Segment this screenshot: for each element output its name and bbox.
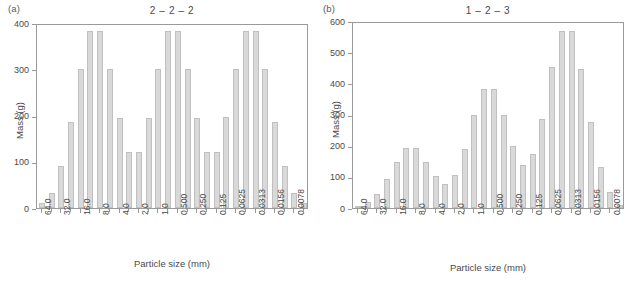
x-tick-mark-minor [148, 209, 149, 212]
x-tick-mark-minor [425, 209, 426, 212]
y-tick-mark [32, 163, 36, 164]
x-tick-mark-minor [561, 209, 562, 212]
y-tick-mark [32, 70, 36, 71]
y-tick-mark [348, 84, 352, 85]
panel-a-x-axis-label: Particle size (mm) [36, 258, 308, 269]
panel-a-title: 2 – 2 – 2 [36, 5, 308, 16]
bar [481, 89, 487, 208]
panel-b-title: 1 – 2 – 3 [352, 5, 624, 16]
x-tick-mark [119, 209, 120, 213]
y-tick-mark [32, 117, 36, 118]
bar [97, 31, 103, 208]
x-tick-mark [99, 209, 100, 213]
bar [68, 122, 74, 208]
bar [185, 69, 191, 208]
y-tick-label: 600 [330, 18, 345, 27]
x-tick-mark-minor [167, 209, 168, 212]
x-tick-mark-minor [206, 209, 207, 212]
x-tick-mark-minor [367, 209, 368, 212]
x-tick-mark [473, 209, 474, 213]
bar [87, 31, 93, 208]
bar [262, 69, 268, 208]
x-tick-mark [157, 209, 158, 213]
y-tick-label: 0 [340, 205, 345, 214]
bar [549, 67, 555, 208]
x-tick-mark-minor [245, 209, 246, 212]
y-tick-mark [32, 24, 36, 25]
bar [78, 69, 84, 208]
x-tick-label: 64.0 [44, 198, 53, 215]
panel-b: (b) 1 – 2 – 3 0100200300400500600 Mass (… [315, 0, 629, 281]
panel-a-plot-area [36, 24, 308, 209]
x-tick-mark-minor [580, 209, 581, 212]
x-tick-mark [177, 209, 178, 213]
bar [165, 31, 171, 208]
x-tick-mark [80, 209, 81, 213]
x-tick-mark-minor [89, 209, 90, 212]
y-tick-label: 400 [330, 80, 345, 89]
x-tick-mark [216, 209, 217, 213]
y-tick-mark [348, 178, 352, 179]
x-tick-mark [235, 209, 236, 213]
y-tick-label: 500 [330, 49, 345, 58]
x-tick-mark-minor [405, 209, 406, 212]
x-tick-mark [609, 209, 610, 213]
panel-a-tag: (a) [8, 3, 20, 14]
panel-a-bars [37, 25, 307, 208]
x-tick-mark-minor [619, 209, 620, 212]
x-tick-mark [435, 209, 436, 213]
x-tick-mark [293, 209, 294, 213]
y-tick-mark [348, 53, 352, 54]
x-tick-mark-minor [522, 209, 523, 212]
bar [155, 69, 161, 208]
bar [107, 69, 113, 208]
x-tick-mark-minor [541, 209, 542, 212]
x-tick-label: 16.0 [399, 198, 408, 215]
x-tick-mark-minor [187, 209, 188, 212]
bar [491, 89, 497, 208]
y-tick-label: 400 [14, 20, 29, 29]
bar [146, 118, 152, 208]
y-tick-label: 100 [330, 173, 345, 182]
x-tick-mark-minor [386, 209, 387, 212]
y-tick-mark [348, 22, 352, 23]
panel-b-y-axis-label: Mass (g) [330, 101, 341, 138]
panel-a: (a) 2 – 2 – 2 0100200300400 Mass (g) 64.… [0, 0, 314, 281]
x-tick-mark [255, 209, 256, 213]
x-tick-mark [551, 209, 552, 213]
x-tick-mark [571, 209, 572, 213]
figure-root: (a) 2 – 2 – 2 0100200300400 Mass (g) 64.… [0, 0, 629, 281]
bar [578, 69, 584, 208]
y-tick-mark [32, 209, 36, 210]
x-tick-mark-minor [264, 209, 265, 212]
y-tick-label: 0 [24, 205, 29, 214]
x-tick-mark [493, 209, 494, 213]
bar [175, 31, 181, 208]
bar [569, 31, 575, 208]
bar [423, 162, 429, 208]
x-tick-mark-minor [444, 209, 445, 212]
x-tick-mark [415, 209, 416, 213]
x-tick-mark-minor [483, 209, 484, 212]
y-tick-label: 100 [14, 158, 29, 167]
x-tick-label: 16.0 [83, 198, 92, 215]
panel-b-bars [353, 23, 623, 208]
x-tick-mark [590, 209, 591, 213]
bar [462, 149, 468, 208]
x-tick-mark-minor [503, 209, 504, 212]
x-tick-mark-minor [600, 209, 601, 212]
x-tick-mark [41, 209, 42, 213]
x-tick-mark [138, 209, 139, 213]
x-tick-mark-minor [51, 209, 52, 212]
x-tick-mark-minor [70, 209, 71, 212]
bar [243, 31, 249, 208]
x-tick-mark-minor [225, 209, 226, 212]
x-tick-label: 32.0 [379, 198, 388, 215]
x-tick-label: 64.0 [360, 198, 369, 215]
bar [126, 152, 132, 208]
y-tick-label: 300 [14, 66, 29, 75]
x-tick-mark [357, 209, 358, 213]
x-tick-mark-minor [284, 209, 285, 212]
panel-b-tag: (b) [323, 3, 335, 14]
y-tick-mark [348, 147, 352, 148]
